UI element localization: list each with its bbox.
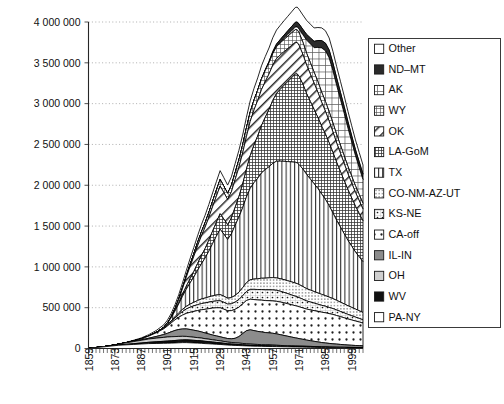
legend-swatch xyxy=(375,313,384,322)
legend-item-wv[interactable]: WV xyxy=(375,290,407,302)
chart-legend[interactable]: OtherND–MTAKWYOKLA-GoMTXCO-NM-AZ-UTKS-NE… xyxy=(369,39,501,328)
legend-box xyxy=(369,39,501,328)
legend-item-ok[interactable]: OK xyxy=(375,125,405,137)
legend-swatch xyxy=(375,44,384,53)
legend-item-oh[interactable]: OH xyxy=(375,269,405,281)
legend-swatch xyxy=(375,292,384,301)
y-tick-label: 4 000 000 xyxy=(34,16,81,28)
legend-item-tx[interactable]: TX xyxy=(375,166,403,178)
legend-label: LA-GoM xyxy=(389,145,429,157)
legend-item-nd-mt[interactable]: ND–MT xyxy=(375,63,427,75)
legend-item-pa-ny[interactable]: PA-NY xyxy=(375,311,421,323)
legend-item-ca-off[interactable]: CA-off xyxy=(375,228,420,240)
y-tick-label: 500 000 xyxy=(43,301,81,313)
legend-label: CO-NM-AZ-UT xyxy=(389,187,461,199)
y-tick-label: 3 500 000 xyxy=(34,57,81,69)
legend-item-ak[interactable]: AK xyxy=(375,83,404,95)
legend-label: CA-off xyxy=(389,228,420,240)
y-tick-label: 1 000 000 xyxy=(34,261,81,273)
legend-item-il-in[interactable]: IL-IN xyxy=(375,249,412,261)
legend-item-other[interactable]: Other xyxy=(375,42,416,54)
legend-swatch xyxy=(375,230,384,239)
y-tick-label: 0 xyxy=(75,342,81,354)
y-tick-label: 3 000 000 xyxy=(34,97,81,109)
legend-label: OH xyxy=(389,269,405,281)
legend-label: WV xyxy=(389,290,407,302)
legend-label: AK xyxy=(389,83,404,95)
legend-swatch xyxy=(375,106,384,115)
legend-swatch xyxy=(375,65,384,74)
y-axis-ticks: 0500 0001 000 0001 500 0002 000 0002 500… xyxy=(34,16,89,355)
legend-swatch xyxy=(375,127,384,136)
legend-label: Other xyxy=(389,42,416,54)
legend-label: TX xyxy=(389,166,403,178)
legend-label: PA-NY xyxy=(389,311,421,323)
legend-item-la-gom[interactable]: LA-GoM xyxy=(375,145,429,157)
legend-label: WY xyxy=(389,104,406,116)
legend-swatch xyxy=(375,209,384,218)
legend-swatch xyxy=(375,147,384,156)
legend-label: KS-NE xyxy=(389,207,422,219)
legend-label: OK xyxy=(389,125,405,137)
legend-swatch xyxy=(375,86,384,95)
chart-container: 0500 0001 000 0001 500 0002 000 0002 500… xyxy=(0,0,504,404)
legend-label: IL-IN xyxy=(389,249,412,261)
legend-item-wy[interactable]: WY xyxy=(375,104,406,116)
legend-item-ks-ne[interactable]: KS-NE xyxy=(375,207,422,219)
legend-swatch xyxy=(375,168,384,177)
legend-swatch xyxy=(375,251,384,260)
stacked-area-chart: 0500 0001 000 0001 500 0002 000 0002 500… xyxy=(0,0,504,404)
y-tick-label: 2 500 000 xyxy=(34,138,81,150)
legend-swatch xyxy=(375,271,384,280)
y-tick-label: 1 500 000 xyxy=(34,220,81,232)
y-tick-label: 2 000 000 xyxy=(34,179,81,191)
legend-swatch xyxy=(375,189,384,198)
legend-label: ND–MT xyxy=(389,63,427,75)
